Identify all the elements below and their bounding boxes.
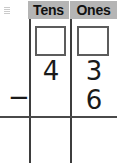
answer-cell-ones[interactable] [73, 120, 116, 162]
subtraction-rule-line [0, 116, 117, 118]
subtraction-operator: − [8, 84, 30, 110]
minuend-digit-ones: 3 [79, 58, 109, 84]
regroup-box-ones[interactable] [77, 26, 109, 56]
regroup-box-tens[interactable] [35, 26, 66, 56]
subtrahend-digit-ones: 6 [79, 87, 109, 113]
corner-artifact-mark [4, 7, 10, 14]
column-header-tens: Tens [28, 1, 70, 19]
grid-divider-middle [70, 19, 72, 163]
column-header-ones: Ones [70, 1, 117, 19]
minuend-digit-tens: 4 [36, 58, 66, 84]
subtraction-worksheet: Tens Ones 4 3 − 6 [0, 0, 117, 163]
answer-cell-tens[interactable] [32, 120, 69, 162]
place-value-header-row: Tens Ones [28, 1, 117, 19]
